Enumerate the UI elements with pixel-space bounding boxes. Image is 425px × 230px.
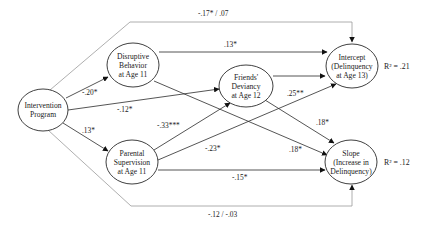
node-label-line: Friends' (234, 73, 259, 82)
node-label-line: Parental (120, 149, 145, 158)
edge-label: -.20* (82, 88, 98, 97)
edge-intervention-intercept: -.17* / .07 (50, 9, 352, 90)
edge-parental-friends: -.33*** (154, 103, 230, 150)
node-parental-supervision: Parental Supervision at Age 11 (106, 140, 158, 184)
node-friends-deviancy: Friends' Deviancy at Age 12 (219, 65, 273, 107)
node-label-line: (Delinquency (331, 62, 373, 71)
edge-label: -.23* (205, 144, 221, 153)
edge-label: -.33*** (157, 121, 180, 130)
edge-label: -.15* (232, 173, 248, 182)
node-label-line: at Age 11 (119, 70, 148, 79)
node-label-line: at Age 12 (231, 91, 260, 100)
node-label-line: at Age 11 (118, 167, 147, 176)
node-label-line: Delinquency) (330, 167, 372, 176)
node-slope: Slope (Increase in Delinquency) R² = .12 (325, 140, 410, 184)
edge-label: .18* (316, 118, 329, 127)
edge-intervention-parental: .13* (63, 123, 108, 151)
edge-label: .25** (287, 89, 304, 98)
path-diagram: -.17* / .07 -.12 / -.03 -.20* -.12* .13*… (0, 0, 425, 230)
node-label-line: Slope (342, 149, 360, 158)
edge-label: .18* (289, 145, 302, 154)
node-label-line: at Age 13) (336, 71, 368, 80)
edge-label: -.17* / .07 (198, 9, 229, 18)
edge-label: -.12 / -.03 (208, 210, 237, 219)
node-intervention-program: Intervention Program (18, 89, 68, 131)
edge-intervention-slope: -.12 / -.03 (48, 130, 352, 219)
edge-intervention-disruptive: -.20* (66, 77, 108, 98)
node-label-line: Disruptive (117, 52, 150, 61)
node-label-line: (Increase in (333, 158, 369, 167)
node-disruptive-behavior: Disruptive Behavior at Age 11 (107, 43, 159, 87)
node-label-line: Intervention (24, 101, 61, 110)
r-squared-slope: R² = .12 (384, 158, 410, 167)
node-label-line: Deviancy (231, 82, 260, 91)
edge-disruptive-intercept: .13* (159, 40, 327, 52)
node-label-line: Behavior (119, 61, 147, 70)
edge-label: .13* (224, 40, 237, 49)
edge-label: .13* (82, 126, 95, 135)
node-intercept: Intercept (Delinquency at Age 13) R² = .… (326, 44, 410, 88)
node-label-line: Program (30, 110, 56, 119)
edge-parental-slope: -.15* (158, 170, 325, 182)
node-label-line: Intercept (339, 53, 367, 62)
node-label-line: Supervision (114, 158, 150, 167)
r-squared-intercept: R² = .21 (384, 62, 410, 71)
edge-friends-slope: .18* (265, 100, 334, 143)
edge-label: -.12* (117, 105, 133, 114)
edge-friends-intercept: .25** (273, 76, 325, 98)
